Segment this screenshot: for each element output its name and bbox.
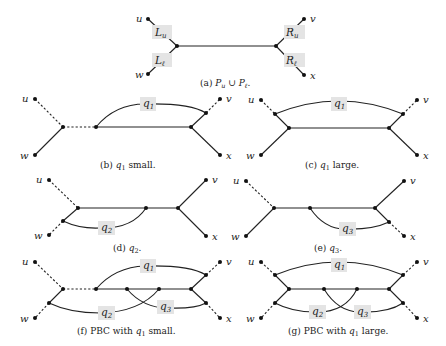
- node-w: [244, 234, 248, 238]
- node-w: [259, 153, 263, 157]
- edge-right-lower: [375, 208, 389, 222]
- caption-e: (e) q3.: [314, 243, 342, 255]
- edge-x-right: [178, 208, 206, 236]
- node-u: [259, 260, 263, 264]
- node-q1-start: [94, 287, 98, 291]
- node-left-junction: [61, 287, 65, 291]
- edge-v-dashed: [206, 262, 220, 275]
- node-left-junction: [175, 44, 179, 48]
- vertex-label-x: x: [423, 150, 429, 161]
- vertex-label-u: u: [22, 256, 28, 267]
- vertex-label-w: w: [231, 231, 240, 242]
- edge-x-dashed: [389, 222, 404, 236]
- vertex-label-x: x: [423, 313, 429, 324]
- node-v: [402, 179, 406, 183]
- node-right-junction: [387, 287, 391, 291]
- node-right-junction: [274, 44, 278, 48]
- vertex-label-v: v: [410, 175, 416, 186]
- node-v: [204, 178, 208, 182]
- edge-u-dashed: [261, 100, 275, 114]
- node-x: [415, 316, 419, 320]
- node-q3-end: [401, 301, 405, 305]
- panel-d: q2 u v w x (d) q2.: [34, 174, 218, 255]
- node-q3-start: [125, 287, 129, 291]
- edge-w-dashed: [49, 221, 63, 235]
- node-q1-start: [273, 273, 277, 277]
- node-q1-end: [204, 111, 208, 115]
- vertex-label-u: u: [136, 13, 142, 24]
- node-q2-end: [144, 206, 148, 210]
- node-q1-end: [204, 273, 208, 277]
- node-x: [415, 153, 419, 157]
- edge-u-left-dashed: [35, 99, 63, 127]
- edge-left-lower: [275, 289, 289, 303]
- edge-right-lower: [191, 289, 206, 303]
- vertex-label-v: v: [423, 256, 429, 267]
- vertex-label-w: w: [20, 313, 29, 324]
- node-x: [218, 316, 222, 320]
- edge-x-dashed: [403, 303, 417, 318]
- vertex-label-v: v: [310, 13, 316, 24]
- node-u: [244, 179, 248, 183]
- vertex-label-w: w: [246, 150, 255, 161]
- node-v: [415, 98, 419, 102]
- edge-left-upper: [275, 114, 289, 128]
- vertex-label-x: x: [226, 313, 232, 324]
- edge-w-left: [35, 127, 63, 155]
- vertex-label-w: w: [246, 313, 255, 324]
- node-u: [33, 97, 37, 101]
- edge-right-upper: [191, 275, 206, 289]
- edge-right-lower: [389, 289, 403, 303]
- node-v: [218, 97, 222, 101]
- edge-v-dashed: [403, 262, 417, 275]
- edge-left-lower: [63, 208, 78, 221]
- node-q2-start: [273, 301, 277, 305]
- edge-w-left: [261, 128, 289, 155]
- figure-canvas: Lu Lℓ Ru Rℓ u v w x (a) Pu ∪ Pℓ. q1: [0, 0, 446, 346]
- node-right-junction: [189, 287, 193, 291]
- node-right-junction: [387, 126, 391, 130]
- node-left-junction: [272, 206, 276, 210]
- vertex-label-x: x: [410, 231, 416, 242]
- edge-right-upper: [389, 114, 403, 128]
- node-v: [218, 260, 222, 264]
- edge-u-dashed: [246, 181, 274, 208]
- node-v: [415, 260, 419, 264]
- edge-x-right: [191, 127, 220, 155]
- node-right-junction: [189, 125, 193, 129]
- node-v: [302, 17, 306, 21]
- node-left-junction: [76, 206, 80, 210]
- node-right-junction: [373, 206, 377, 210]
- node-x: [402, 234, 406, 238]
- node-w: [259, 316, 263, 320]
- edge-right-upper: [389, 275, 403, 289]
- caption-g: (g) PBC with q1 large.: [288, 326, 388, 338]
- panel-e: q3 u v w x (e) q3.: [231, 175, 416, 255]
- node-q3-end: [204, 301, 208, 305]
- vertex-label-w: w: [34, 230, 43, 241]
- vertex-label-u: u: [248, 256, 254, 267]
- caption-b: (b) q1 small.: [100, 160, 156, 172]
- edge-v-right: [178, 180, 206, 208]
- caption-c: (c) q1 large.: [305, 160, 359, 172]
- edge-left-lower: [49, 289, 63, 303]
- node-x: [302, 73, 306, 77]
- node-w: [33, 316, 37, 320]
- panel-f: q1 q2 q3 u v w x (f) PBC with q1 small.: [20, 256, 232, 338]
- edge-w-left: [246, 208, 274, 236]
- caption-a: (a) Pu ∪ Pℓ.: [200, 78, 251, 90]
- node-w: [47, 233, 51, 237]
- edge-right-upper: [191, 113, 206, 127]
- edge-v-dashed: [206, 99, 220, 113]
- node-q2-end: [157, 287, 161, 291]
- node-u: [47, 178, 51, 182]
- edge-x-dashed: [206, 303, 220, 318]
- vertex-label-v: v: [226, 93, 232, 104]
- node-q2-end: [355, 287, 359, 291]
- vertex-label-v: v: [212, 174, 218, 185]
- panel-c: q1 u v w x (c) q1 large.: [246, 94, 429, 172]
- panel-b: q1 u v w x (b) q1 small.: [20, 93, 232, 172]
- edge-u-dashed: [49, 180, 78, 208]
- node-q3-end: [387, 220, 391, 224]
- node-left-junction: [287, 126, 291, 130]
